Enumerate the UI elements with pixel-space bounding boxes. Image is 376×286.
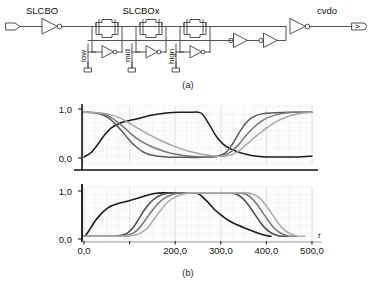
circuit-net-label: SLCBOx	[123, 5, 160, 16]
caption-panel-a: (a)	[0, 80, 376, 90]
chart-bottom-xticks: 0,0200,0300,0400,0500,0	[77, 241, 324, 256]
feedback-inverter-pair	[229, 27, 286, 48]
control-label-low: low	[79, 50, 88, 62]
input-port-symbol	[6, 23, 42, 30]
chart-bottom-ylabel-high: 1,0	[59, 186, 72, 197]
chart-bottom-xlabel: t	[318, 231, 321, 240]
chart-bottom-xtick-label: 0,0	[77, 245, 90, 256]
chart-top-ylabel-high: 1,0	[59, 104, 72, 115]
output-port-symbol	[352, 23, 367, 30]
chart-bottom: 1,0 0,0 0,0200,0300,0400,0500,0 t	[59, 184, 324, 256]
waveform-svg: 1,0 0,0 1,0 0,0 0,0200,0300,0400,0500,0 …	[0, 96, 376, 272]
chart-bottom-xtick-label: 300,0	[209, 245, 233, 256]
figure-root: SLCBO SLCBOx cvdo low mid hign (a) 1,0 0…	[0, 0, 376, 286]
chart-top-ylabel-low: 0,0	[59, 153, 72, 164]
chart-bottom-xtick-label: 400,0	[255, 245, 279, 256]
chart-bottom-xtick-label: 500,0	[300, 245, 324, 256]
chart-bottom-grid	[84, 187, 312, 241]
inverter-input	[42, 19, 62, 34]
chart-top: 1,0 0,0	[59, 104, 318, 171]
circuit-input-label: SLCBO	[26, 5, 58, 16]
transmission-gate-stage-1	[85, 20, 123, 73]
control-label-mid: mid	[123, 49, 132, 62]
circuit-output-label: cvdo	[317, 5, 337, 16]
transmission-gate-stage-2	[129, 20, 167, 73]
control-label-hign: hign	[167, 49, 176, 64]
transmission-gate-stage-3	[173, 20, 211, 73]
chart-bottom-ylabel-low: 0,0	[59, 234, 72, 245]
chart-bottom-xtick-label: 200,0	[163, 245, 187, 256]
inverter-output	[290, 19, 352, 34]
waveform-panel: 1,0 0,0 1,0 0,0 0,0200,0300,0400,0500,0 …	[0, 96, 376, 272]
caption-panel-b: (b)	[0, 268, 376, 278]
